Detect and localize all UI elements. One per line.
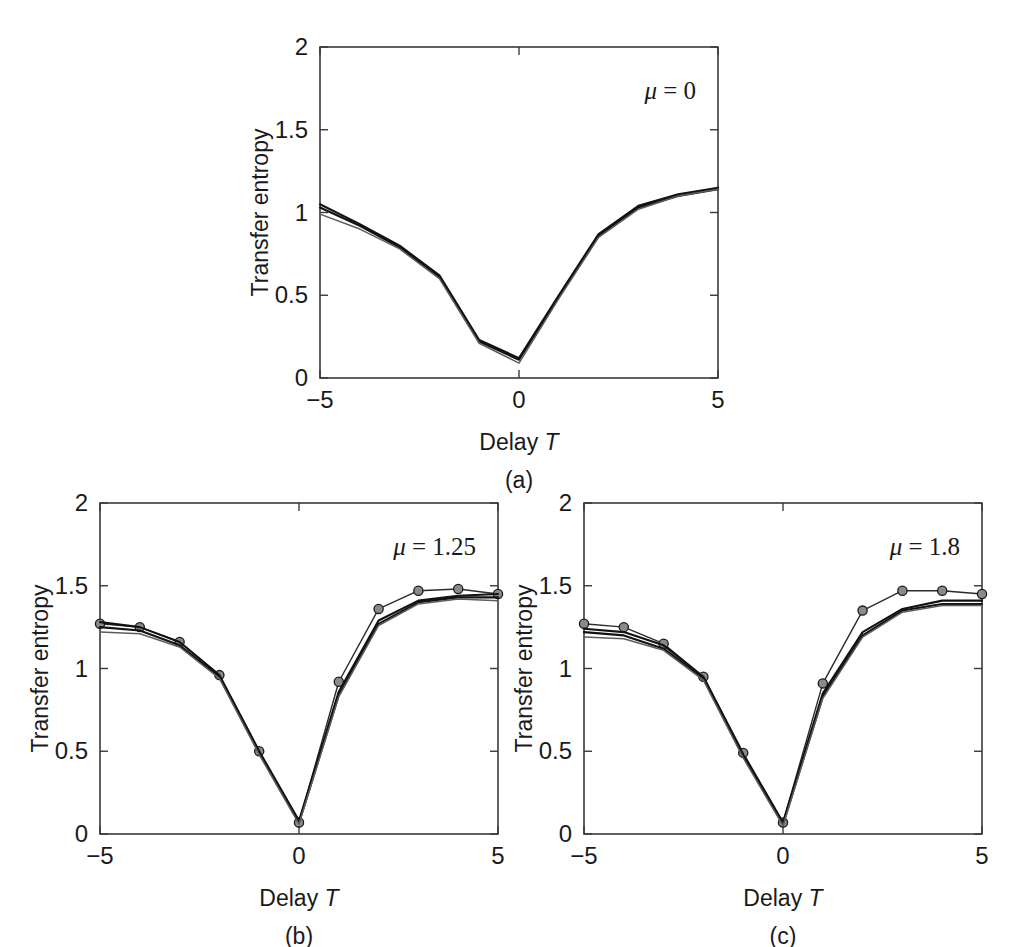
series-ensemble-lower <box>320 189 718 363</box>
data-point-marker <box>898 586 907 595</box>
data-point-marker <box>619 623 628 632</box>
x-tick-label: 0 <box>776 842 789 869</box>
figure-transfer-entropy: 00.511.52−505μ= 0Delay TTransfer entropy… <box>0 0 1013 947</box>
mu-value: = 1.8 <box>908 533 960 560</box>
mu-symbol: μ <box>889 533 903 560</box>
chart-b: 00.511.52−505μ= 1.25Delay TTransfer entr… <box>8 486 508 941</box>
x-axis-title: Delay T <box>479 429 560 455</box>
panel-caption: (c) <box>770 923 797 947</box>
data-point-marker <box>454 584 463 593</box>
x-tick-label: 5 <box>711 386 724 413</box>
data-point-marker <box>977 589 986 598</box>
series-ensemble-mid <box>100 597 498 822</box>
y-tick-label: 1 <box>75 655 88 682</box>
panel-a: 00.511.52−505μ= 0Delay TTransfer entropy… <box>228 30 728 485</box>
mu-symbol: μ <box>644 77 658 104</box>
plot-frame <box>320 47 718 378</box>
chart-c: 00.511.52−505μ= 1.8Delay TTransfer entro… <box>492 486 992 941</box>
panel-c: 00.511.52−505μ= 1.8Delay TTransfer entro… <box>492 486 992 941</box>
y-tick-label: 2 <box>559 489 572 516</box>
mu-annotation: μ= 1.25 <box>392 533 476 560</box>
x-axis-title: Delay T <box>743 885 824 911</box>
mu-value: = 0 <box>663 77 696 104</box>
series-ensemble-lower <box>100 599 498 824</box>
panel-caption: (b) <box>285 923 313 947</box>
mu-annotation: μ= 0 <box>644 77 696 104</box>
x-tick-label: −5 <box>306 386 333 413</box>
x-tick-label: −5 <box>86 842 113 869</box>
y-axis-title: Transfer entropy <box>27 584 53 752</box>
panel-b: 00.511.52−505μ= 1.25Delay TTransfer entr… <box>8 486 508 941</box>
mu-value: = 1.25 <box>412 533 476 560</box>
series-ensemble-upper <box>100 594 498 821</box>
series-ensemble-upper <box>320 188 718 358</box>
data-point-marker <box>414 586 423 595</box>
mu-symbol: μ <box>392 533 406 560</box>
chart-a: 00.511.52−505μ= 0Delay TTransfer entropy… <box>228 30 728 485</box>
y-tick-label: 0.5 <box>55 737 88 764</box>
series-marked-line <box>100 589 498 822</box>
data-point-marker <box>938 586 947 595</box>
data-point-marker <box>858 606 867 615</box>
y-tick-label: 1.5 <box>275 116 308 143</box>
series-marked-line <box>584 591 982 823</box>
series-ensemble-mid <box>584 604 982 824</box>
y-axis-title: Transfer entropy <box>247 128 273 296</box>
x-tick-label: 0 <box>292 842 305 869</box>
y-tick-label: 1.5 <box>55 572 88 599</box>
x-tick-label: 0 <box>512 386 525 413</box>
x-axis-title: Delay T <box>259 885 340 911</box>
y-tick-label: 1 <box>559 655 572 682</box>
series-ensemble-upper <box>584 601 982 823</box>
mu-annotation: μ= 1.8 <box>889 533 960 560</box>
x-tick-label: 5 <box>975 842 988 869</box>
x-tick-label: −5 <box>570 842 597 869</box>
data-point-marker <box>579 619 588 628</box>
y-axis-title: Transfer entropy <box>511 584 537 752</box>
y-tick-label: 1 <box>295 199 308 226</box>
y-tick-label: 0.5 <box>539 737 572 764</box>
series-ensemble-mid <box>320 189 718 359</box>
y-tick-label: 1.5 <box>539 572 572 599</box>
y-tick-label: 2 <box>295 33 308 60</box>
data-point-marker <box>374 604 383 613</box>
y-tick-label: 2 <box>75 489 88 516</box>
y-tick-label: 0.5 <box>275 281 308 308</box>
